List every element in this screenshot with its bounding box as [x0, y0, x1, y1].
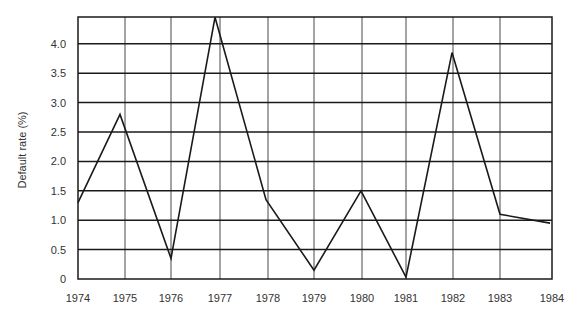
- y-tick-label: 3.5: [51, 67, 66, 79]
- x-tick-label: 1976: [159, 292, 183, 304]
- y-tick-label: 4.0: [51, 38, 66, 50]
- y-tick-label: 3.0: [51, 97, 66, 109]
- x-tick-label: 1980: [350, 292, 374, 304]
- horizontal-gridlines: [78, 44, 552, 250]
- x-tick-label: 1977: [208, 292, 232, 304]
- x-tick-label: 1975: [113, 292, 137, 304]
- y-tick-label: 2.5: [51, 126, 66, 138]
- x-axis-ticks: 1974197519761977197819791980198119821983…: [66, 292, 564, 304]
- x-tick-label: 1981: [394, 292, 418, 304]
- line-chart: 00.51.01.52.02.53.03.54.0 19741975197619…: [0, 0, 577, 324]
- x-tick-label: 1982: [441, 292, 465, 304]
- vertical-gridlines: [125, 17, 500, 279]
- x-tick-label: 1983: [488, 292, 512, 304]
- y-axis-label: Default rate (%): [16, 111, 28, 188]
- y-axis-ticks: 00.51.01.52.02.53.03.54.0: [51, 38, 66, 285]
- y-tick-label: 0: [60, 273, 66, 285]
- x-tick-label: 1978: [256, 292, 280, 304]
- y-tick-label: 0.5: [51, 244, 66, 256]
- y-tick-label: 1.5: [51, 185, 66, 197]
- y-tick-label: 2.0: [51, 155, 66, 167]
- x-tick-label: 1979: [302, 292, 326, 304]
- x-tick-label: 1974: [66, 292, 90, 304]
- y-tick-label: 1.0: [51, 214, 66, 226]
- x-tick-label: 1984: [540, 292, 564, 304]
